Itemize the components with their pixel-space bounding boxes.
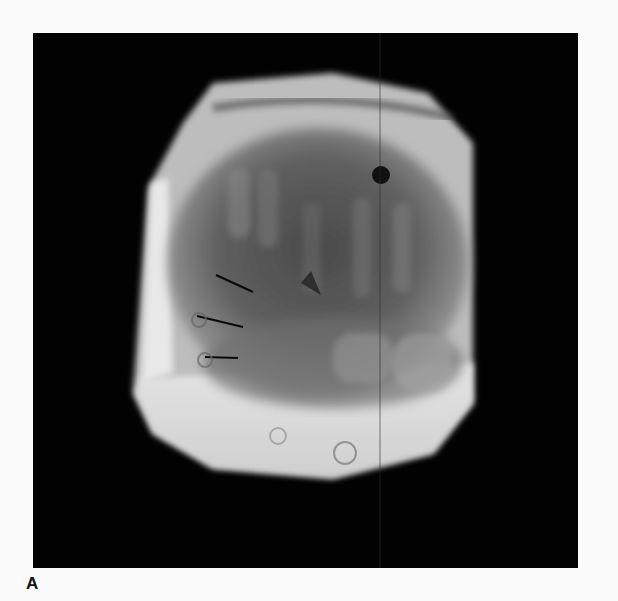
xray-image-frame bbox=[33, 33, 578, 568]
panel-label: A bbox=[26, 574, 38, 594]
xray-image bbox=[33, 33, 578, 568]
